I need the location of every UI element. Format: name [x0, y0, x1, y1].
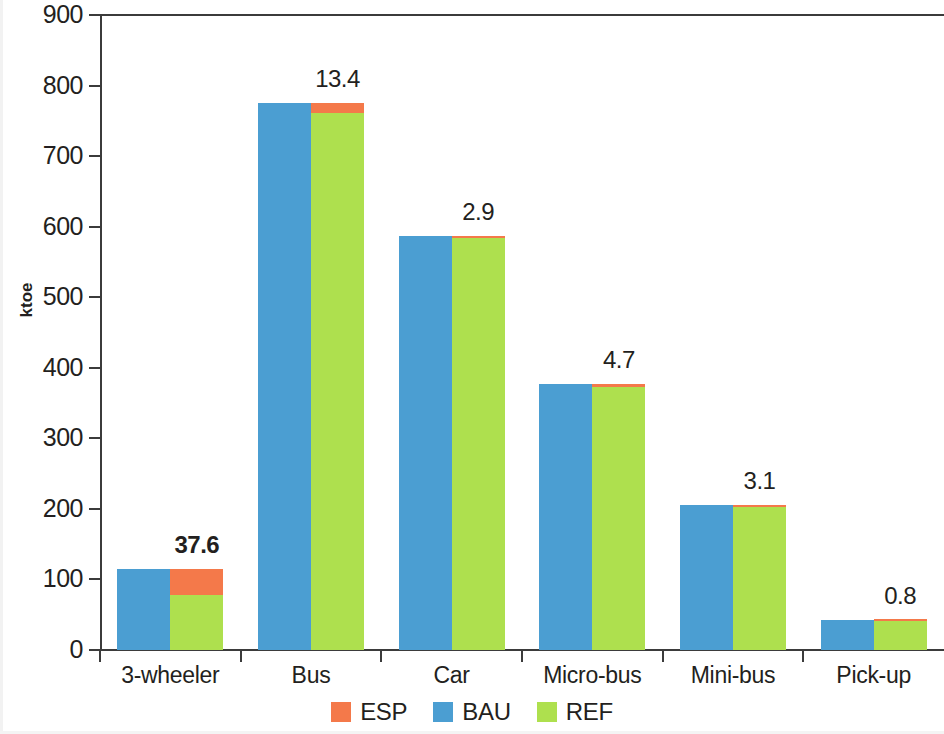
- segment-ref: [170, 595, 223, 650]
- segment-esp: [170, 569, 223, 596]
- x-axis-tick: [521, 650, 523, 662]
- y-axis-tick: [89, 367, 100, 369]
- y-axis-tick: [89, 578, 100, 580]
- y-axis-tick-label: 900: [0, 2, 83, 27]
- bar-stacked-ref-esp: [452, 236, 505, 650]
- bar-stacked-ref-esp: [874, 620, 927, 650]
- x-axis-tick: [380, 650, 382, 662]
- x-axis-category-label: Car: [381, 662, 522, 688]
- bar-value-label: 2.9: [432, 200, 525, 224]
- bar-stacked-ref-esp: [592, 384, 645, 650]
- segment-ref: [592, 387, 645, 650]
- y-axis-tick-label: 200: [0, 496, 83, 521]
- segment-ref: [311, 113, 364, 650]
- bar-stacked-ref-esp: [170, 569, 223, 650]
- bar-bau: [680, 505, 733, 650]
- x-axis-category-label: Bus: [241, 662, 382, 688]
- x-axis-category-label: Micro-bus: [522, 662, 663, 688]
- bar-value-label: 37.6: [150, 533, 243, 557]
- y-axis-tick: [89, 508, 100, 510]
- bar-stacked-ref-esp: [311, 103, 364, 650]
- bar-bau: [821, 620, 874, 650]
- legend-swatch-icon: [433, 702, 453, 722]
- y-axis-tick-label: 100: [0, 566, 83, 591]
- bar-value-label: 4.7: [572, 348, 665, 372]
- y-axis-tick-label: 0: [0, 637, 83, 662]
- y-axis-line: [100, 14, 102, 651]
- y-axis-tick-label: 300: [0, 425, 83, 450]
- bar-chart: ktoe 9008007006005004003002001000 37.613…: [0, 0, 944, 734]
- y-axis-tick: [89, 226, 100, 228]
- legend-label: ESP: [360, 700, 407, 724]
- segment-ref: [452, 238, 505, 650]
- y-axis-tick-label: 600: [0, 214, 83, 239]
- segment-esp: [452, 236, 505, 238]
- plot-top-rule: [100, 14, 944, 16]
- y-axis-tick-label: 500: [0, 284, 83, 309]
- segment-esp: [592, 384, 645, 387]
- x-axis-category-label: Pick-up: [803, 662, 944, 688]
- y-axis-tick-label: 800: [0, 73, 83, 98]
- y-axis-tick: [89, 296, 100, 298]
- segment-ref: [733, 507, 786, 650]
- bar-value-label: 13.4: [291, 67, 384, 91]
- y-axis-tick: [89, 155, 100, 157]
- x-axis-category-label: 3-wheeler: [100, 662, 241, 688]
- x-axis-category-label: Mini-bus: [663, 662, 804, 688]
- bar-bau: [399, 236, 452, 650]
- x-axis-tick: [240, 650, 242, 662]
- bar-value-label: 3.1: [713, 469, 806, 493]
- bar-bau: [539, 384, 592, 650]
- segment-esp: [874, 619, 927, 621]
- y-axis-tick-label: 400: [0, 355, 83, 380]
- legend-swatch-icon: [331, 702, 351, 722]
- y-axis-tick-label: 700: [0, 143, 83, 168]
- chart-legend: ESPBAUREF: [0, 700, 944, 724]
- legend-item: BAU: [433, 700, 510, 724]
- y-axis-tick: [89, 437, 100, 439]
- bar-stacked-ref-esp: [733, 505, 786, 650]
- segment-esp: [733, 505, 786, 507]
- y-axis-tick: [89, 85, 100, 87]
- bar-value-label: 0.8: [854, 584, 944, 608]
- x-axis-tick: [662, 650, 664, 662]
- legend-item: ESP: [331, 700, 407, 724]
- segment-ref: [874, 621, 927, 650]
- legend-label: REF: [566, 700, 613, 724]
- legend-swatch-icon: [537, 702, 557, 722]
- bar-bau: [258, 103, 311, 650]
- x-axis-tick: [802, 650, 804, 662]
- x-axis-tick: [99, 650, 101, 662]
- legend-item: REF: [537, 700, 613, 724]
- segment-esp: [311, 103, 364, 112]
- legend-label: BAU: [462, 700, 510, 724]
- y-axis-tick: [89, 14, 100, 16]
- bar-bau: [117, 569, 170, 650]
